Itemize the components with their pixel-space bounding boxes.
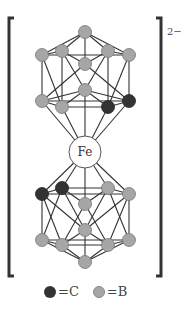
boron-atom — [36, 95, 49, 108]
boron-atom — [79, 58, 92, 71]
boron-atom — [79, 256, 92, 269]
boron-atom — [102, 182, 115, 195]
boron-atom — [79, 198, 92, 211]
fe-label: Fe — [78, 145, 93, 159]
boron-atom — [36, 49, 49, 62]
boron-swatch — [93, 286, 105, 298]
boron-atom — [102, 45, 115, 58]
left-bracket — [9, 18, 14, 276]
fe-dicarbollide-diagram: Fe — [0, 0, 190, 309]
fe-atom: Fe — [69, 136, 101, 168]
boron-atom — [56, 239, 69, 252]
boron-atom — [123, 49, 136, 62]
carbon-atom — [102, 101, 115, 114]
boron-atom — [79, 84, 92, 97]
boron-atom — [56, 101, 69, 114]
boron-atom — [79, 26, 92, 39]
boron-atom — [102, 239, 115, 252]
carbon-swatch — [44, 286, 56, 298]
charge-label: 2− — [167, 26, 182, 37]
legend-boron: =B — [93, 284, 127, 299]
legend: =C =B — [44, 284, 141, 299]
carbon-atom — [123, 95, 136, 108]
carbon-atom — [36, 188, 49, 201]
boron-atom — [56, 45, 69, 58]
boron-atom — [123, 234, 136, 247]
boron-atom — [79, 224, 92, 237]
legend-carbon: =C — [44, 284, 79, 299]
boron-atom — [36, 234, 49, 247]
legend-boron-label: =B — [107, 284, 127, 299]
boron-atom — [123, 188, 136, 201]
carbon-atom — [56, 182, 69, 195]
legend-carbon-label: =C — [58, 284, 79, 299]
right-bracket — [156, 18, 161, 276]
